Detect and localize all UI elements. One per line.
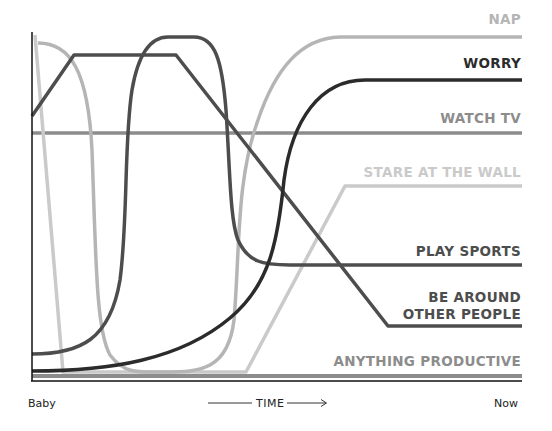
label-be-around-line1: BE AROUND	[428, 289, 521, 305]
label-watch-tv: WATCH TV	[440, 110, 521, 126]
label-be-around-line2: OTHER PEOPLE	[403, 306, 521, 322]
label-worry: WORRY	[463, 55, 521, 71]
label-nap: NAP	[488, 11, 521, 27]
label-stare-at-the-wall: STARE AT THE WALL	[364, 164, 521, 180]
label-play-sports: PLAY SPORTS	[416, 243, 521, 259]
x-axis-title: TIME	[256, 397, 284, 410]
series-be-around-other-people	[32, 55, 522, 326]
x-end-label: Now	[494, 397, 518, 410]
label-anything-productive: ANYTHING PRODUCTIVE	[333, 353, 521, 369]
x-start-label: Baby	[28, 397, 56, 410]
